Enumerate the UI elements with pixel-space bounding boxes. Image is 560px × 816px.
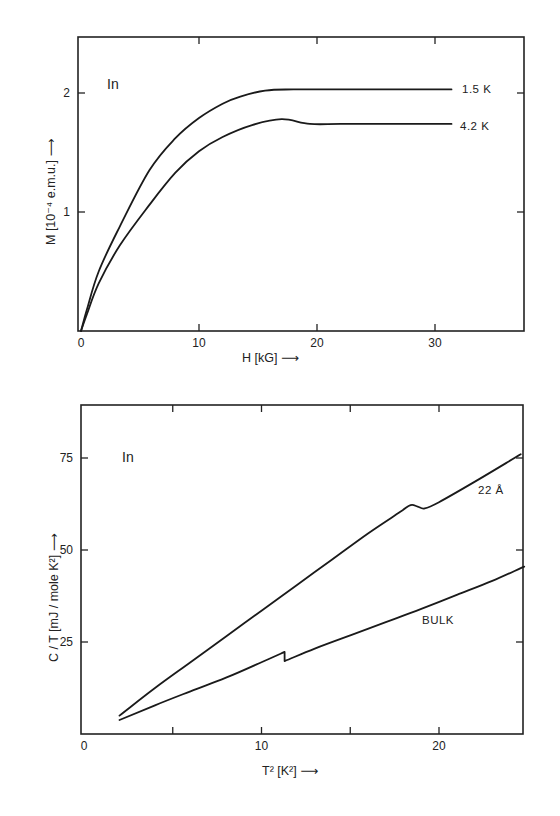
series-label-bulk: BULK (422, 614, 454, 626)
y-axis-title: M [10⁻⁴ e.m.u.] ⟶ (44, 139, 58, 245)
specific-heat-chart: 01020255075 In 22 Å BULK T² [K²] ⟶ C / T… (47, 405, 524, 778)
series-label-22a: 22 Å (478, 484, 504, 496)
x-tick-label: 30 (428, 336, 442, 350)
series-curve-1-5-k (81, 89, 452, 331)
x-tick-label: 10 (192, 336, 206, 350)
bottom-curves (120, 454, 525, 720)
figure: 010203012 In 1.5 K 4.2 K H [kG] ⟶ M [10⁻… (0, 0, 560, 816)
y-tick-label: 1 (63, 205, 70, 219)
top-ticks: 010203012 (63, 37, 524, 350)
top-plot-frame (78, 37, 524, 331)
x-tick-label: 20 (432, 739, 446, 753)
x-tick-label: 10 (255, 739, 269, 753)
bottom-plot-frame (81, 405, 523, 734)
y-tick-label: 50 (60, 543, 74, 557)
series-label-4-2k: 4.2 K (460, 120, 489, 132)
x-tick-label: 20 (310, 336, 324, 350)
y-tick-label: 75 (60, 451, 74, 465)
magnetization-chart: 010203012 In 1.5 K 4.2 K H [kG] ⟶ M [10⁻… (44, 37, 524, 365)
series-curve-bulk (120, 567, 525, 720)
top-curves (81, 89, 452, 331)
series-curve-4-2-k (81, 119, 452, 331)
element-label: In (122, 449, 134, 465)
y-tick-label: 2 (63, 86, 70, 100)
x-tick-label: 0 (78, 336, 85, 350)
y-axis-title: C / T [mJ / mole K²] ⟶ (47, 533, 61, 662)
x-axis-title: H [kG] ⟶ (242, 351, 299, 365)
x-tick-label: 0 (81, 739, 88, 753)
figure-canvas: 010203012 In 1.5 K 4.2 K H [kG] ⟶ M [10⁻… (0, 0, 560, 816)
series-curve-22- (120, 454, 521, 715)
series-label-1-5k: 1.5 K (462, 83, 491, 95)
y-tick-label: 25 (60, 635, 74, 649)
x-axis-title: T² [K²] ⟶ (262, 764, 318, 778)
element-label: In (107, 76, 119, 92)
